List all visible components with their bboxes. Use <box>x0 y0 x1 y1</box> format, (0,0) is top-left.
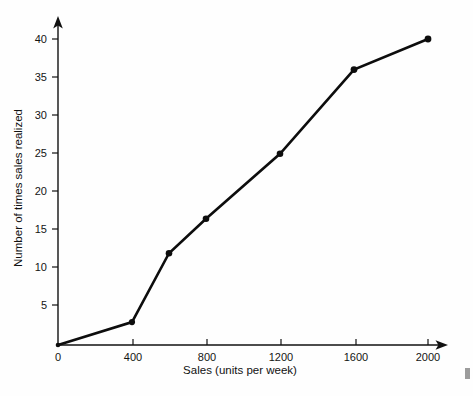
y-axis-tick-labels: 40 35 30 25 20 15 10 5 <box>35 33 47 311</box>
x-tick-label-1200: 1200 <box>269 351 293 363</box>
y-axis-ticks <box>52 39 58 305</box>
x-tick-label-800: 800 <box>198 351 216 363</box>
data-point-markers <box>56 36 432 348</box>
x-axis-ticks <box>133 339 428 345</box>
x-axis <box>58 340 448 350</box>
x-tick-label-1600: 1600 <box>344 351 368 363</box>
y-tick-label-5: 5 <box>41 299 47 311</box>
x-tick-label-2000: 2000 <box>416 351 440 363</box>
y-tick-label-40: 40 <box>35 33 47 45</box>
data-point <box>203 216 210 223</box>
y-tick-label-25: 25 <box>35 147 47 159</box>
data-point <box>129 319 135 325</box>
y-axis <box>53 16 63 345</box>
data-series-line <box>58 39 428 345</box>
data-point <box>56 343 61 348</box>
y-tick-label-35: 35 <box>35 71 47 83</box>
y-tick-label-20: 20 <box>35 185 47 197</box>
line-chart: 40 35 30 25 20 15 10 5 0 400 800 1200 16… <box>0 0 473 396</box>
data-point <box>351 66 358 73</box>
chart-page: 40 35 30 25 20 15 10 5 0 400 800 1200 16… <box>0 0 473 396</box>
data-point <box>166 250 173 257</box>
page-edge-artifact <box>465 368 470 379</box>
x-axis-title: Sales (units per week) <box>183 364 297 376</box>
y-axis-title: Number of times sales realized <box>12 109 24 267</box>
x-axis-tick-labels: 0 400 800 1200 1600 2000 <box>55 351 440 363</box>
x-tick-label-400: 400 <box>124 351 142 363</box>
y-tick-label-15: 15 <box>35 223 47 235</box>
data-point <box>277 151 284 158</box>
y-tick-label-30: 30 <box>35 109 47 121</box>
x-tick-label-0: 0 <box>55 351 61 363</box>
y-tick-label-10: 10 <box>35 261 47 273</box>
data-point <box>425 36 432 43</box>
